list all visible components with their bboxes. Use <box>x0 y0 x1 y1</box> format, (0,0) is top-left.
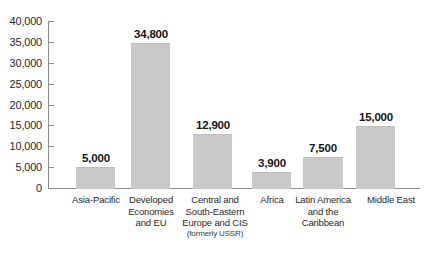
x-label-sublabel-formerly-ussr: (formerly USSR) <box>172 229 258 240</box>
bar-chart: 40,000 35,000 30,000 25,000 20,000 15,00… <box>0 0 437 258</box>
bar-value-asia-pacific: 5,000 <box>66 152 126 164</box>
bar-developed-economies-and-eu[interactable] <box>131 43 170 189</box>
x-label-line: Economies <box>128 206 174 217</box>
x-label-line: Caribbean <box>302 217 345 228</box>
x-label-line: Developed <box>129 194 173 205</box>
x-label-line: Central and <box>191 194 238 205</box>
x-label-line: and EU <box>136 217 167 228</box>
bar-value-middle-east: 15,000 <box>345 111 407 123</box>
x-label-line: Middle East <box>367 194 415 205</box>
bar-latin-america-and-the-caribbean[interactable] <box>303 157 343 189</box>
bar-africa[interactable] <box>252 172 291 189</box>
bar-asia-pacific[interactable] <box>76 167 115 189</box>
x-label-line: Latin America <box>295 194 351 205</box>
bar-value-developed-economies-and-eu: 34,800 <box>120 28 182 40</box>
bar-value-africa: 3,900 <box>242 157 302 169</box>
x-label-latin-america-and-the-caribbean: Latin America and the Caribbean <box>288 194 358 229</box>
x-label-line: Europe and CIS <box>182 217 248 228</box>
bar-value-central-and-south-eastern-europe-and-cis: 12,900 <box>182 119 244 131</box>
bar-value-latin-america-and-the-caribbean: 7,500 <box>293 142 353 154</box>
bar-middle-east[interactable] <box>356 126 395 189</box>
x-label-middle-east: Middle East <box>355 194 427 206</box>
x-label-line: and the <box>308 206 339 217</box>
x-label-line: South-Eastern <box>186 206 245 217</box>
x-label-line: Africa <box>260 194 283 205</box>
bar-central-and-south-eastern-europe-and-cis[interactable] <box>193 134 232 189</box>
